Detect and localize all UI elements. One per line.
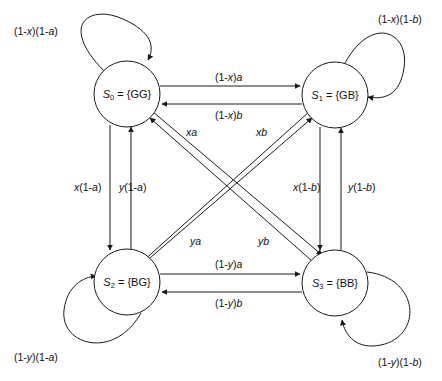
edge-label-s3-s0: xa [186, 127, 197, 138]
edge-label-s0-s3: yb [258, 236, 269, 247]
edge-label-s1-s3: x(1-b) [293, 182, 320, 193]
edge-label-s1-s2: ya [190, 236, 201, 247]
node-label-s3: S3 = {BB} [312, 278, 358, 289]
node-label-s3-set: = {BB} [327, 277, 359, 289]
state-transition-diagram: S0 = {GG} S1 = {GB} S2 = {BG} S3 = {BB} … [0, 0, 442, 381]
diagram-canvas [0, 0, 442, 381]
node-label-s2-index: 2 [111, 281, 115, 290]
node-label-s0-set: = {GG} [117, 88, 151, 100]
edge-label-s0-s2: x(1-a) [74, 182, 101, 193]
edge-label-s1-s0: (1-x)b [215, 110, 242, 121]
edge-label-s3-s1: y(1-b) [348, 182, 375, 193]
edge-label-s2-s0: y(1-a) [119, 182, 146, 193]
node-label-s1: S1 = {GB} [311, 90, 358, 101]
self-loop-label-s1: (1-x)(1-b) [378, 14, 422, 25]
self-loop-label-s2: (1-y)(1-a) [14, 352, 58, 363]
node-label-s1-set: = {GB} [326, 89, 359, 101]
node-label-s1-index: 1 [319, 94, 323, 103]
node-label-s0-index: 0 [110, 93, 114, 102]
edge-label-s2-s3: (1-y)a [215, 259, 242, 270]
edge-label-s0-s1: (1-x)a [215, 72, 242, 83]
node-label-s2-set: = {BG} [118, 276, 151, 288]
node-label-s3-index: 3 [319, 282, 323, 291]
edge-label-s3-s2: (1-y)b [215, 298, 242, 309]
node-label-s2: S2 = {BG} [103, 277, 150, 288]
self-loop-label-s0: (1-x)(1-a) [14, 26, 58, 37]
self-loop-label-s3: (1-y)(1-b) [378, 357, 422, 368]
edge-label-s2-s1: xb [256, 127, 267, 138]
node-label-s0: S0 = {GG} [103, 89, 152, 100]
